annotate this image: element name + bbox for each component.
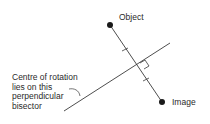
object-point — [107, 22, 113, 28]
perpendicular-bisector-line — [64, 43, 170, 111]
object-image-segment — [110, 25, 162, 102]
object-label: Object — [119, 13, 144, 23]
annotation-line-4: bisector — [12, 102, 78, 112]
image-point — [159, 99, 165, 105]
image-label: Image — [172, 98, 196, 108]
annotation-text: Centre of rotation lies on this perpendi… — [12, 73, 78, 111]
